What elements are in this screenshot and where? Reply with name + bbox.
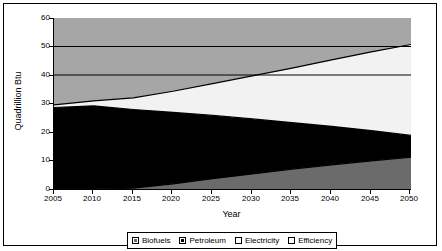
chart-legend: Biofuels Petroleum Electricity Efficienc…	[127, 232, 337, 249]
x-axis-title: Year	[53, 209, 410, 219]
legend-item-biofuels: Biofuels	[132, 236, 170, 245]
x-tick-label-2030: 2030	[236, 194, 266, 203]
legend-label-petroleum: Petroleum	[189, 236, 225, 245]
legend-item-petroleum: Petroleum	[179, 236, 225, 245]
legend-swatch-biofuels	[132, 237, 139, 244]
legend-label-electricity: Electricity	[245, 236, 279, 245]
legend-swatch-efficiency	[288, 237, 295, 244]
chart-frame: Quadrillion Btu 60 50 40 30 20 10 0 2005	[3, 3, 437, 246]
x-tick-label-2035: 2035	[275, 194, 305, 203]
legend-label-biofuels: Biofuels	[142, 236, 170, 245]
legend-item-efficiency: Efficiency	[288, 236, 332, 245]
legend-swatch-electricity	[235, 237, 242, 244]
x-tick-label-2040: 2040	[315, 194, 345, 203]
x-tick-label-2010: 2010	[77, 194, 107, 203]
x-tick-label-2015: 2015	[117, 194, 147, 203]
legend-label-efficiency: Efficiency	[298, 236, 332, 245]
legend-item-electricity: Electricity	[235, 236, 279, 245]
x-tick-label-2045: 2045	[355, 194, 385, 203]
x-tick-label-2025: 2025	[196, 194, 226, 203]
x-tick-label-2050: 2050	[394, 194, 424, 203]
legend-swatch-petroleum	[179, 237, 186, 244]
x-tick-label-2005: 2005	[38, 194, 68, 203]
x-tick-label-2020: 2020	[156, 194, 186, 203]
